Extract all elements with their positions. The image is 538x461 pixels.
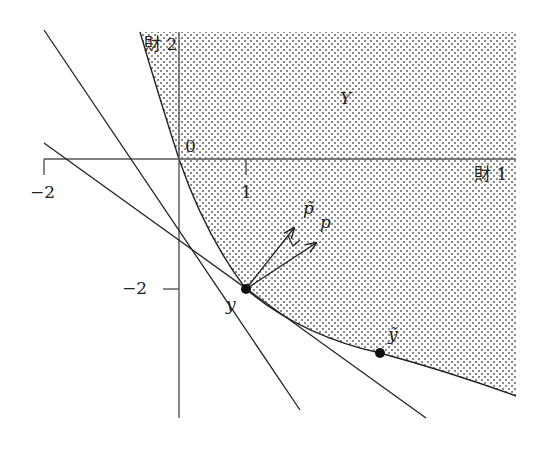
x-tick-label-1: 1 — [241, 184, 252, 201]
origin-label: 0 — [185, 138, 196, 155]
vector-p-tilde-label: p̃ — [303, 200, 314, 217]
y-tick-label-minus2: −2 — [122, 280, 147, 297]
x-axis-label: 財 1 — [474, 166, 507, 183]
diagram-canvas: 財 2 財 1 0 −2 1 −2 Y y ỹ p̃ p — [0, 0, 538, 461]
point-y-tilde-label: ỹ — [388, 326, 398, 343]
region-label: Y — [340, 90, 351, 107]
point-y-tilde — [375, 348, 385, 358]
y-axis-label: 財 2 — [144, 36, 177, 53]
point-y-label: y — [226, 296, 236, 313]
vector-p-label: p — [320, 214, 331, 231]
diagram-svg — [0, 0, 538, 461]
x-tick-label-minus2: −2 — [30, 184, 55, 201]
point-y — [241, 284, 251, 294]
